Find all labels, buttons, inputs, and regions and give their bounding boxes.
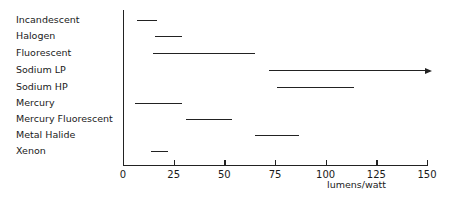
category-label: Mercury	[16, 97, 55, 108]
category-label: Mercury Fluorescent	[16, 113, 113, 124]
x-tick-label: 75	[269, 169, 282, 180]
x-tick-label: 0	[120, 169, 126, 180]
range-bar	[277, 87, 354, 88]
range-bar	[137, 20, 157, 21]
range-bar	[153, 53, 254, 54]
arrow-right-icon	[425, 68, 432, 74]
category-label: Halogen	[16, 30, 55, 41]
range-bar	[269, 70, 429, 71]
x-tick	[174, 160, 175, 166]
x-axis-title: lumens/watt	[327, 179, 386, 190]
x-tick-label: 25	[167, 169, 180, 180]
category-label: Sodium LP	[16, 64, 66, 75]
category-label: Sodium HP	[16, 81, 68, 92]
category-label: Metal Halide	[16, 129, 75, 140]
x-tick	[376, 160, 377, 166]
range-bar	[155, 36, 181, 37]
range-bar	[186, 119, 233, 120]
range-bar	[135, 103, 182, 104]
category-label: Xenon	[16, 145, 46, 156]
range-bar	[151, 151, 167, 152]
x-tick	[275, 160, 276, 166]
y-axis-line	[123, 10, 124, 166]
category-label: Fluorescent	[16, 47, 71, 58]
range-bar	[255, 135, 300, 136]
x-tick	[224, 160, 225, 166]
x-tick	[427, 160, 428, 166]
category-label: Incandescent	[16, 14, 80, 25]
x-tick-label: 50	[218, 169, 231, 180]
x-tick-label: 150	[417, 169, 436, 180]
x-tick	[326, 160, 327, 166]
